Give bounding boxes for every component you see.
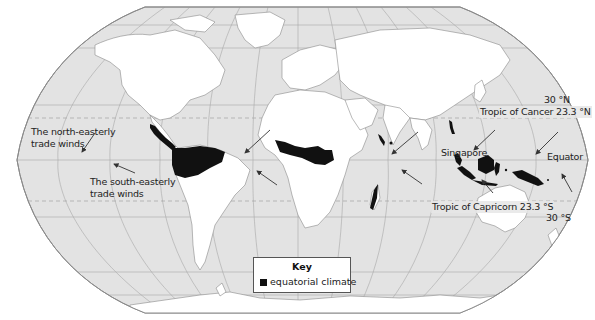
label-30n: 30 °N [544, 94, 570, 106]
label-30s: 30 °S [546, 212, 571, 224]
map-key: Key equatorial climate [253, 257, 351, 293]
label-equator: Equator [547, 151, 583, 163]
ne-trade-winds-label-line2: trade winds [31, 138, 115, 150]
ne-trade-winds-label-line1: The north-easterly [31, 126, 115, 138]
label-tropic-of-capricorn: Tropic of Capricorn 23.3 °S [431, 201, 554, 213]
label-singapore: Singapore [441, 147, 487, 159]
se-trade-winds-label-line2: trade winds [90, 188, 175, 200]
label-tropic-of-cancer: Tropic of Cancer 23.3 °N [479, 106, 592, 118]
se-trade-winds-label-line1: The south-easterly [90, 176, 175, 188]
se-trade-winds-label: The south-easterly trade winds [90, 176, 175, 200]
ne-trade-winds-label: The north-easterly trade winds [31, 126, 115, 150]
equatorial-climate-swatch [260, 279, 267, 286]
key-item-equatorial-climate: equatorial climate [270, 276, 356, 287]
key-title: Key [254, 261, 350, 272]
